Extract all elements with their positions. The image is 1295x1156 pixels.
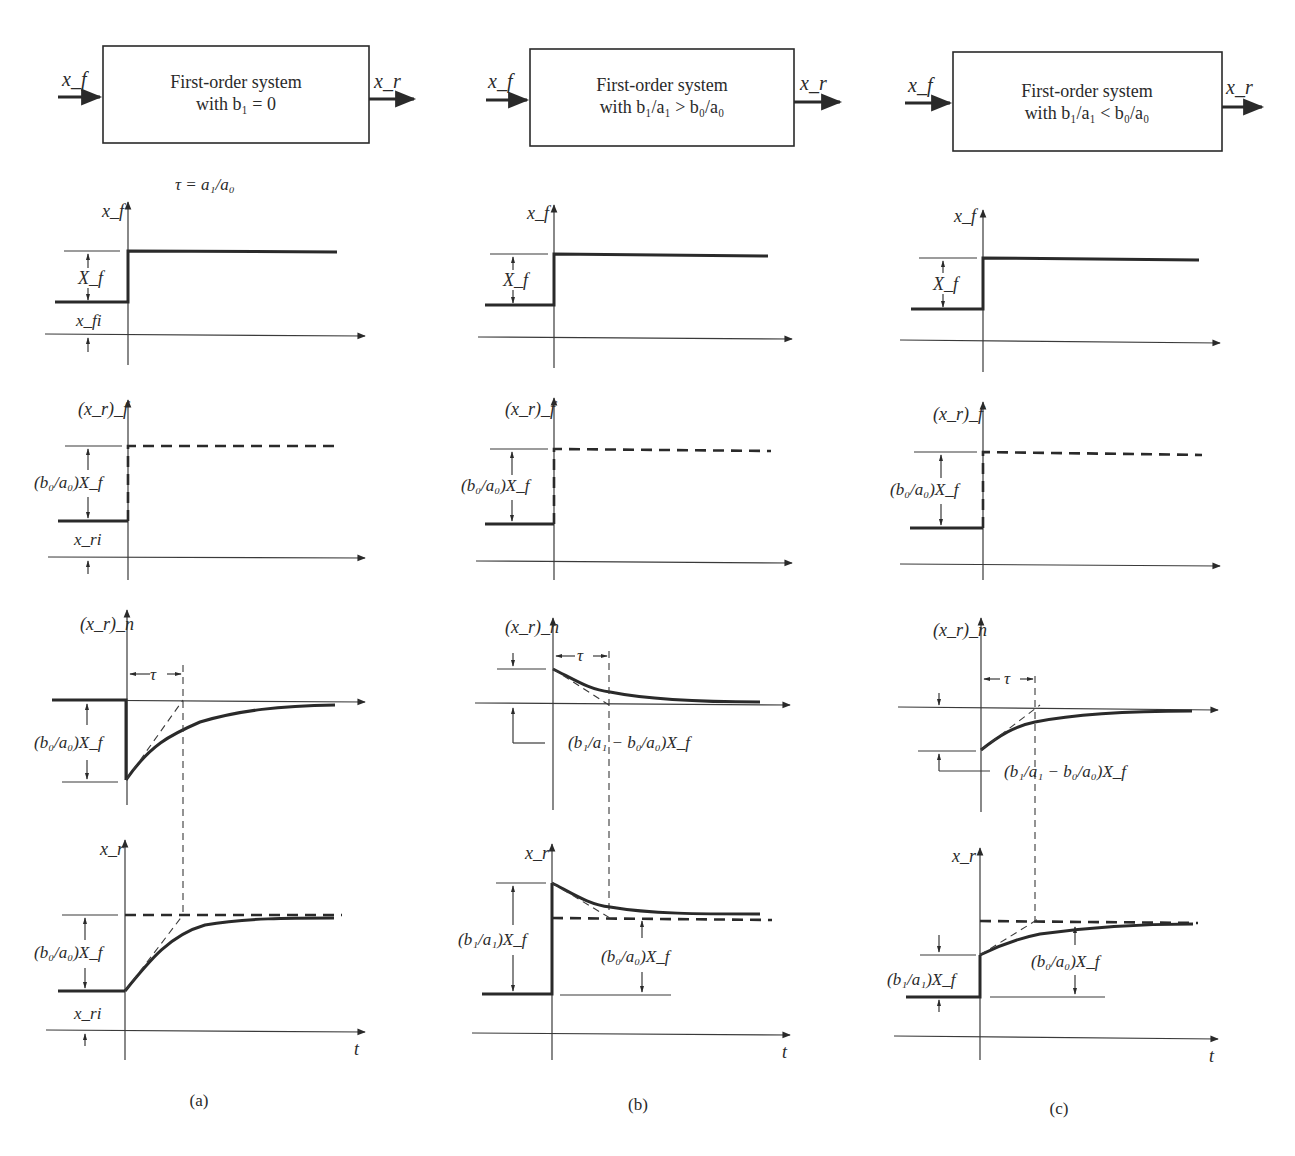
x-axis-label: t bbox=[782, 1042, 788, 1062]
jump-magnitude-label: (b₁/a₁)X_f bbox=[887, 970, 958, 989]
y-axis-label: (x_r)_n bbox=[933, 620, 987, 641]
total-response-curve bbox=[980, 924, 1193, 955]
block-diagram-b: x_f First-order system with b₁/a₁ > b₀/a… bbox=[486, 49, 840, 146]
y-axis-label: x_r bbox=[951, 846, 977, 866]
plot-natural-response-b: (x_r)_n τ (b₁/a₁ − b₀/a₀)X_f bbox=[475, 617, 790, 915]
final-value-line bbox=[552, 918, 772, 920]
forced-response-curve bbox=[128, 446, 340, 521]
y-axis-label: (x_r)_f bbox=[78, 399, 131, 420]
figure-canvas: x_f First-order system with b₁ = 0 x_r τ… bbox=[0, 0, 1295, 1156]
step-magnitude-label: (b₀/a₀)X_f bbox=[890, 480, 961, 499]
panel-b: x_f First-order system with b₁/a₁ > b₀/a… bbox=[458, 49, 840, 1114]
forced-response-curve bbox=[983, 452, 1202, 528]
x-axis bbox=[476, 561, 792, 563]
jump-magnitude-label: (b₁/a₁)X_f bbox=[458, 930, 529, 949]
plot-forced-response-c: (x_r)_f (b₀/a₀)X_f bbox=[890, 402, 1220, 580]
block-title-line2: with b₁/a₁ > b₀/a₀ bbox=[600, 97, 725, 117]
block-title-line1: First-order system bbox=[170, 72, 301, 92]
plot-forced-response-b: (x_r)_f (b₀/a₀)X_f bbox=[461, 398, 792, 580]
tau-label: τ bbox=[1004, 669, 1011, 688]
y-axis-label: x_f bbox=[101, 201, 127, 221]
forced-response-curve bbox=[554, 449, 771, 524]
step-magnitude-label: (b₀/a₀)X_f bbox=[34, 943, 105, 962]
x-axis bbox=[900, 340, 1220, 343]
input-label: x_f bbox=[61, 68, 89, 91]
block-title-line2: with b₁/a₁ < b₀/a₀ bbox=[1025, 103, 1150, 123]
initial-value-label: x_fi bbox=[75, 311, 102, 330]
total-response-curve bbox=[125, 918, 334, 991]
y-axis-label: x_f bbox=[526, 203, 552, 223]
x-axis-label: t bbox=[1209, 1046, 1215, 1066]
step-magnitude-label: (b₀/a₀)X_f bbox=[461, 476, 532, 495]
step-magnitude-label: X_f bbox=[932, 274, 961, 294]
plot-forcing-b: x_f X_f bbox=[478, 203, 792, 368]
plot-total-response-a: x_r (b₀/a₀)X_f x_ri t bbox=[34, 839, 365, 1060]
x-axis bbox=[894, 1036, 1218, 1039]
initial-value-label: x_ri bbox=[73, 1004, 102, 1023]
x-axis bbox=[48, 557, 365, 558]
step-magnitude-label: X_f bbox=[502, 270, 531, 290]
block-diagram-c: x_f First-order system with b₁/a₁ < b₀/a… bbox=[905, 52, 1262, 151]
final-value-label: (b₀/a₀)X_f bbox=[1031, 952, 1102, 971]
input-label: x_f bbox=[487, 70, 515, 93]
plot-forced-response-a: (x_r)_f (b₀/a₀)X_f x_ri bbox=[34, 399, 365, 580]
x-axis bbox=[472, 1033, 790, 1035]
y-axis-label: (x_r)_f bbox=[505, 399, 558, 420]
tau-label: τ bbox=[150, 665, 157, 684]
final-value-label: (b₀/a₀)X_f bbox=[601, 947, 672, 966]
panel-a: x_f First-order system with b₁ = 0 x_r τ… bbox=[34, 46, 414, 1110]
tangent-line bbox=[126, 700, 183, 780]
natural-response-curve bbox=[981, 711, 1192, 750]
x-axis bbox=[478, 337, 792, 339]
plot-forcing-c: x_f X_f bbox=[900, 206, 1220, 372]
y-axis-label: x_f bbox=[953, 206, 979, 226]
step-magnitude-label: X_f bbox=[77, 268, 106, 288]
x-axis bbox=[46, 1030, 365, 1032]
panel-c: x_f First-order system with b₁/a₁ < b₀/a… bbox=[887, 52, 1262, 1118]
time-constant-note: τ = a₁/a₀ bbox=[175, 175, 235, 194]
y-axis-label: x_r bbox=[99, 839, 125, 859]
y-axis-label: x_r bbox=[524, 843, 550, 863]
plot-forcing-a: x_f X_f x_fi bbox=[45, 201, 365, 365]
panel-caption: (c) bbox=[1050, 1099, 1069, 1118]
total-response-curve bbox=[552, 883, 760, 914]
x-axis bbox=[898, 707, 1218, 710]
initial-value-label: x_ri bbox=[73, 530, 102, 549]
x-axis bbox=[45, 334, 365, 336]
output-label: x_r bbox=[373, 70, 401, 92]
y-axis-label: (x_r)_n bbox=[80, 614, 134, 635]
plot-total-response-c: x_r (b₁/a₁)X_f (b₀/a₀)X_f t bbox=[887, 846, 1218, 1066]
plot-natural-response-a: (x_r)_n τ (b₀/a₀)X_f bbox=[34, 610, 365, 915]
panel-caption: (b) bbox=[628, 1095, 648, 1114]
final-value-line bbox=[980, 921, 1198, 923]
plot-natural-response-c: (x_r)_n τ (b₁/a₁ − b₀/a₀)X_f bbox=[898, 618, 1218, 920]
output-label: x_r bbox=[1225, 76, 1253, 98]
system-block bbox=[953, 52, 1222, 151]
step-magnitude-label: (b₀/a₀)X_f bbox=[34, 473, 105, 492]
block-title-line2: with b₁ = 0 bbox=[196, 94, 276, 114]
block-diagram-a: x_f First-order system with b₁ = 0 x_r τ… bbox=[58, 46, 414, 194]
amplitude-label: (b₁/a₁ − b₀/a₀)X_f bbox=[1004, 762, 1128, 781]
y-axis-label: (x_r)_n bbox=[505, 617, 559, 638]
block-title-line1: First-order system bbox=[1021, 81, 1152, 101]
output-label: x_r bbox=[799, 72, 827, 94]
plot-total-response-b: x_r (b₁/a₁)X_f (b₀/a₀)X_f t bbox=[458, 843, 790, 1062]
tau-label: τ bbox=[577, 646, 584, 665]
input-label: x_f bbox=[907, 74, 935, 97]
natural-response-curve bbox=[553, 669, 760, 702]
x-axis-label: t bbox=[354, 1039, 360, 1059]
amplitude-label: (b₁/a₁ − b₀/a₀)X_f bbox=[568, 733, 692, 752]
natural-response-curve bbox=[126, 705, 335, 780]
block-title-line1: First-order system bbox=[596, 75, 727, 95]
panel-caption: (a) bbox=[190, 1091, 209, 1110]
x-axis bbox=[900, 564, 1220, 566]
y-axis-label: (x_r)_f bbox=[933, 404, 986, 425]
amplitude-label: (b₀/a₀)X_f bbox=[34, 733, 105, 752]
